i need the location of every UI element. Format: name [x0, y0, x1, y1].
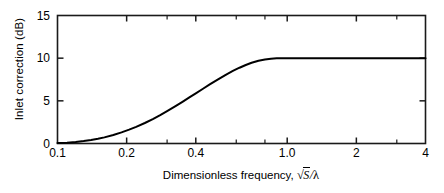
data-series-line [58, 58, 426, 143]
y-axis-label: Inlet correction (dB) [13, 0, 25, 144]
x-tick-label: 1.0 [279, 146, 296, 160]
x-tick-label: 4 [422, 146, 429, 160]
y-tick-label: 0 [43, 137, 50, 151]
x-tick-label: 0.2 [118, 146, 135, 160]
x-axis-label: Dimensionless frequency, √S/λ [57, 168, 425, 183]
x-axis-label-text: Dimensionless frequency, [163, 169, 294, 181]
x-tick-label: 0.4 [187, 146, 204, 160]
x-tick-label: 0.1 [49, 146, 66, 160]
lambda-symbol: λ [313, 168, 319, 182]
chart-figure: Inlet correction (dB) Dimensionless freq… [0, 0, 444, 193]
plot-frame [58, 16, 426, 144]
plot-canvas [0, 0, 444, 193]
y-tick-label: 10 [37, 51, 50, 65]
y-tick-label: 15 [37, 9, 50, 23]
x-tick-label: 2 [353, 146, 360, 160]
y-tick-label: 5 [43, 94, 50, 108]
x-axis-label-math: √S/λ [297, 168, 319, 182]
radicand-s: S [303, 167, 310, 182]
